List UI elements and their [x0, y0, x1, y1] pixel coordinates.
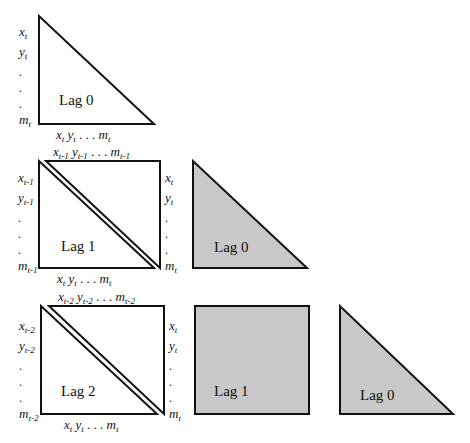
row3-top-variables: xt-2 yt-2 . . . mt-2: [58, 290, 135, 308]
lag0-label-row2: Lag 0: [214, 239, 249, 256]
row2-left-variables: xt-1 yt-1 . . . mt-1: [18, 170, 37, 278]
lag0-triangle-row2: [193, 161, 307, 268]
lag0-label-row1: Lag 0: [59, 92, 94, 109]
lag0-triangle-row3: [340, 306, 453, 414]
diagram-canvas: [0, 0, 470, 443]
lag1-label-row3: Lag 1: [214, 383, 249, 400]
row3-bottom-variables: xt yt . . . mt: [64, 418, 119, 436]
lag2-square-row3: [41, 306, 164, 414]
row2-right-variables: xt yt . . . mt: [165, 170, 177, 278]
lag1-square-row2: [39, 161, 160, 268]
row2-bottom-variables: xt yt . . . mt: [57, 272, 112, 290]
lag2-label-row3: Lag 2: [61, 383, 96, 400]
lag1-square-row3: [195, 306, 309, 414]
row2-top-variables: xt-1 yt-1 . . . mt-1: [53, 145, 130, 163]
lag0-triangle-row1: [39, 16, 154, 124]
row1-left-variables: xt yt . . . mt: [19, 24, 31, 132]
row3-left-variables: xt-2 yt-2 . . . mt-2: [19, 318, 38, 426]
row3-right-variables: xt yt . . . mt: [169, 318, 181, 426]
lag1-label-row2: Lag 1: [61, 238, 96, 255]
lag0-label-row3: Lag 0: [360, 387, 395, 404]
